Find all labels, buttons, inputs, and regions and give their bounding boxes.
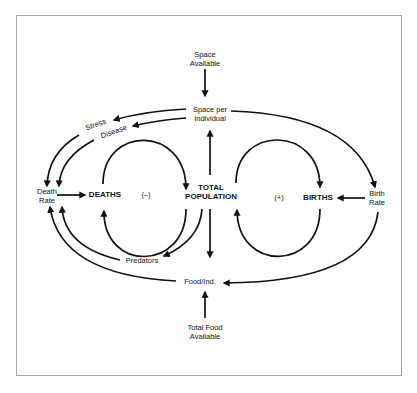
arrow-space-per-ind-to-disease: [133, 118, 186, 126]
node-predators: Predators: [126, 257, 159, 266]
arrow-births-to-population: [237, 209, 320, 256]
node-food-per-individual: Food/Ind.: [184, 278, 216, 287]
space-available-line2: Available: [190, 60, 220, 69]
arrow-deaths-to-population: [103, 140, 186, 189]
node-total-population: TOTAL POPULATION: [185, 184, 237, 201]
total-population-line2: POPULATION: [185, 193, 237, 202]
node-birth-rate: Birth Rate: [369, 190, 385, 207]
arrow-birth-rate-to-food: [224, 212, 378, 283]
positive-loop-indicator: (+): [274, 194, 283, 203]
node-space-available: Space Available: [190, 51, 220, 68]
arrow-stress-to-death-rate: [47, 135, 79, 186]
negative-loop-indicator: (–): [141, 191, 150, 200]
node-deaths: DEATHS: [89, 191, 121, 200]
arrow-population-to-predators: [164, 209, 202, 256]
arrow-predators-to-death-rate: [62, 207, 120, 260]
node-total-food-available: Total Food Available: [187, 324, 222, 341]
arrow-food-to-death-rate: [50, 207, 176, 281]
arrow-population-to-deaths: [104, 209, 186, 257]
birth-rate-line2: Rate: [369, 199, 385, 208]
arrow-population-to-births: [236, 140, 320, 187]
node-space-per-individual: Space per Individual: [193, 106, 227, 123]
node-death-rate: Death Rate: [37, 188, 57, 205]
node-births: BIRTHS: [303, 194, 333, 203]
total-food-line2: Available: [187, 333, 222, 342]
space-per-individual-line2: Individual: [193, 115, 227, 124]
death-rate-line2: Rate: [37, 197, 57, 206]
